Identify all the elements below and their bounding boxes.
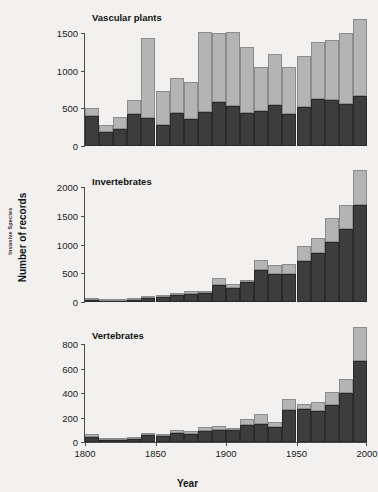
x-axis-tick-label: 1900 (215, 448, 236, 459)
plot-area (85, 18, 367, 146)
bar-segment-casual (141, 38, 155, 118)
bar-segment-established (311, 411, 325, 442)
bar (170, 430, 184, 442)
bar-segment-established (198, 112, 212, 146)
bar-segment-casual (254, 414, 268, 424)
bar (311, 42, 325, 146)
bar-segment-established (141, 435, 155, 442)
bar-segment-established (268, 105, 282, 146)
bar-segment-established (184, 294, 198, 302)
bar (282, 264, 296, 302)
bar (198, 32, 212, 146)
bar (325, 218, 339, 302)
panel-invertebrates: Invertebrates 0500100015002000 (0, 160, 375, 312)
bar-segment-established (226, 430, 240, 442)
bar (254, 260, 268, 302)
bar (297, 56, 311, 146)
bar (297, 404, 311, 442)
bar-segment-casual (226, 284, 240, 287)
bar (184, 431, 198, 442)
bar (282, 67, 296, 146)
bar-segment-casual (353, 327, 367, 361)
bar-segment-casual (254, 67, 268, 111)
x-axis-tick (156, 442, 157, 446)
bar (156, 296, 170, 302)
bar-segment-casual (198, 32, 212, 112)
bar-segment-casual (99, 299, 113, 301)
y-axis: 0500100015002000 (30, 170, 85, 302)
bar-segment-casual (297, 56, 311, 107)
x-axis-tick (226, 442, 227, 446)
bar-segment-casual (311, 42, 325, 99)
bar-segment-casual (212, 278, 226, 284)
bar-segment-established (198, 293, 212, 302)
bar (170, 78, 184, 146)
bar-segment-established (226, 288, 240, 302)
bar-segment-established (85, 116, 99, 146)
bar (353, 19, 367, 146)
x-axis-tick (297, 442, 298, 446)
bar (339, 379, 353, 442)
bar (268, 54, 282, 146)
bar (198, 427, 212, 442)
bar (127, 100, 141, 146)
bar-segment-established (325, 100, 339, 146)
bar-segment-established (240, 113, 254, 147)
bar-segment-established (99, 132, 113, 146)
bar-segment-established (127, 300, 141, 302)
bar-segment-casual (268, 54, 282, 105)
bar (339, 33, 353, 146)
bar-segment-established (170, 113, 184, 146)
bar-segment-established (240, 425, 254, 442)
x-axis-tick (366, 442, 367, 446)
bar-segment-established (212, 430, 226, 442)
bar-group (85, 170, 367, 302)
bar-segment-casual (198, 427, 212, 431)
bar (99, 125, 113, 146)
bar-segment-casual (156, 295, 170, 297)
bar-segment-casual (353, 170, 367, 205)
bar (184, 82, 198, 146)
bar-segment-casual (198, 291, 212, 293)
bar-segment-established (339, 104, 353, 146)
bar (141, 434, 155, 442)
bar-segment-established (254, 111, 268, 146)
bar-segment-casual (297, 404, 311, 409)
bar (240, 47, 254, 146)
bar-segment-casual (282, 264, 296, 274)
bar (282, 399, 296, 442)
bar (254, 67, 268, 146)
bar-segment-casual (212, 33, 226, 102)
bar-segment-casual (85, 434, 99, 436)
y-axis: 0200400600800 (30, 326, 85, 442)
y-axis-tick-label: 2000 (57, 182, 78, 193)
bar-segment-casual (170, 430, 184, 433)
bar (226, 32, 240, 146)
bar-segment-casual (226, 428, 240, 430)
bar-segment-established (127, 114, 141, 146)
bar (85, 300, 99, 302)
bar-segment-casual (282, 399, 296, 409)
bar (113, 300, 127, 302)
bar-segment-casual (311, 402, 325, 411)
bar-segment-established (198, 431, 212, 442)
bar-segment-casual (184, 291, 198, 294)
bar-segment-established (282, 114, 296, 146)
y-axis-tick-label: 200 (62, 412, 78, 423)
y-axis-tick-label: 1500 (57, 28, 78, 39)
bar-segment-casual (240, 280, 254, 282)
bar-segment-established (212, 285, 226, 303)
y-axis-tick-label: 1500 (57, 210, 78, 221)
bar (141, 297, 155, 302)
plot-area (85, 170, 367, 302)
bar-segment-casual (226, 32, 240, 106)
y-axis-tick (81, 302, 85, 303)
plot-area (85, 326, 367, 442)
bar-segment-established (282, 274, 296, 302)
bar-segment-established (254, 270, 268, 302)
bar-group (85, 326, 367, 442)
y-axis: 050010001500 (30, 18, 85, 146)
bar-segment-established (184, 434, 198, 442)
bar-segment-established (353, 361, 367, 442)
bar (240, 280, 254, 302)
